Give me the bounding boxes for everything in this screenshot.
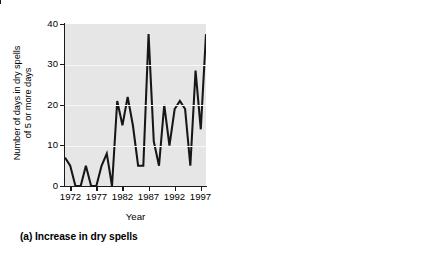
panel-a-dry-spells: Number of days in dry spells of 5 or mor… xyxy=(0,0,220,255)
x-tick-a-1992 xyxy=(175,187,176,191)
x-tick-a-1977 xyxy=(96,187,97,191)
x-tick-a-1972 xyxy=(70,187,71,191)
y-tick-label-a-40: 40 xyxy=(18,19,58,29)
x-tick-a-1997 xyxy=(201,187,202,191)
noop xyxy=(0,0,1,4)
x-tick-a-1982 xyxy=(122,187,123,191)
y-tick-a-0 xyxy=(60,186,64,187)
y-tick-a-10 xyxy=(60,145,64,146)
gridline-a-10 xyxy=(65,146,206,147)
y-tick-label-a-0: 0 xyxy=(18,181,58,191)
gridline-a-20 xyxy=(65,105,206,106)
y-tick-label-a-10: 10 xyxy=(18,140,58,150)
x-axis-line-a xyxy=(64,186,207,187)
caption-a: (a) Increase in dry spells xyxy=(20,231,138,242)
plot-area-a xyxy=(65,24,206,186)
y-tick-label-a-30: 30 xyxy=(18,59,58,69)
y-tick-label-a-20: 20 xyxy=(18,100,58,110)
y-tick-a-20 xyxy=(60,105,64,106)
figure-two-panel-charts: Number of days in dry spells of 5 or mor… xyxy=(0,0,437,255)
x-axis-title-a: Year xyxy=(65,211,206,222)
x-tick-a-1987 xyxy=(149,187,150,191)
y-axis-line-a xyxy=(64,23,65,187)
y-tick-a-30 xyxy=(60,64,64,65)
y-tick-a-40 xyxy=(60,24,64,25)
panel-b-stream-flow: Minimum average stream flow (m3/sec) 1.7… xyxy=(216,0,437,255)
gridline-a-30 xyxy=(65,65,206,66)
